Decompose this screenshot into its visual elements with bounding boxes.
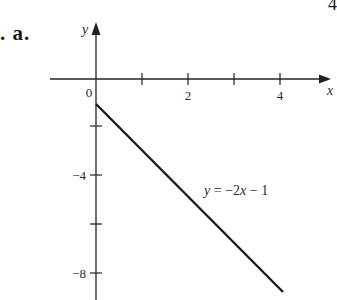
plot-area: 2 4 −4 −8 0 y x y = −2x − 1 [0,0,337,300]
x-tick-label-2: 2 [185,88,192,103]
line-y-eq-neg2x-minus1 [96,104,283,292]
y-axis-label: y [80,22,89,37]
y-axis-arrow-icon [92,22,101,35]
origin-label: 0 [86,85,93,100]
y-tick-label-neg8: −8 [72,266,86,281]
x-tick-label-4: 4 [277,88,284,103]
equation-label: y = −2x − 1 [202,183,268,198]
y-tick-label-neg4: −4 [72,168,86,183]
x-axis-label: x [326,83,334,98]
